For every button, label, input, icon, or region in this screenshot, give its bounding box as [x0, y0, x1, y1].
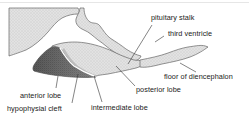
label-floor-of-diencephalon: floor of diencephalon — [164, 73, 233, 80]
leader-hypophysial-cleft — [72, 74, 78, 103]
leader-floor-of-diencephalon — [180, 63, 196, 72]
leader-anterior-lobe — [56, 76, 58, 88]
label-third-ventricle: third ventricle — [168, 30, 212, 37]
label-hypophysial-cleft: hypophysial cleft — [7, 105, 62, 112]
leader-intermediate-lobe — [94, 76, 102, 102]
label-posterior-lobe: posterior lobe — [136, 86, 181, 93]
pituitary-diagram: pituitary stalk third ventricle floor of… — [0, 0, 249, 121]
floor-of-diencephalon-shape — [140, 45, 208, 67]
leader-third-ventricle — [155, 36, 164, 42]
label-intermediate-lobe: intermediate lobe — [91, 104, 148, 111]
label-pituitary-stalk: pituitary stalk — [151, 14, 194, 21]
label-anterior-lobe: anterior lobe — [20, 92, 61, 99]
